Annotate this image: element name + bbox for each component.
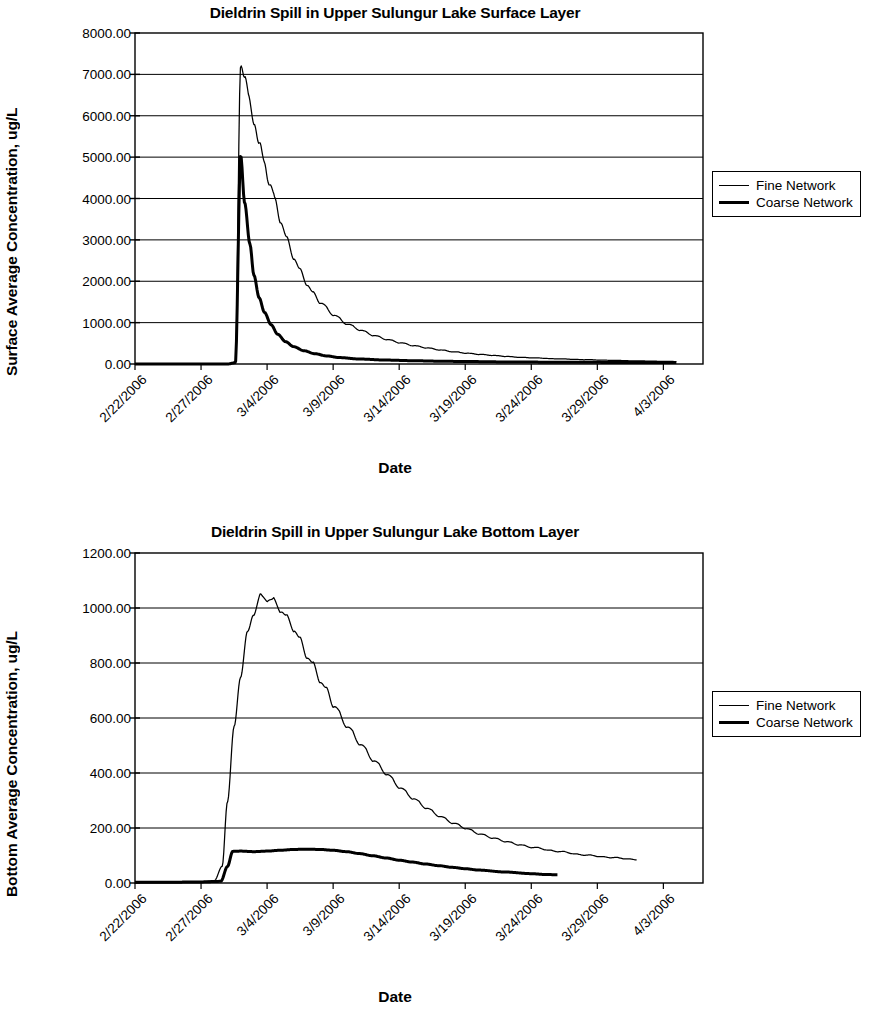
figure-surface-layer: Dieldrin Spill in Upper Sulungur Lake Su… [0, 0, 877, 500]
legend-bottom: Fine Network Coarse Network [712, 691, 861, 737]
x-axis-title-bottom: Date [0, 988, 790, 1006]
legend-item-fine-network[interactable]: Fine Network [719, 177, 853, 194]
figure-bottom-layer: Dieldrin Spill in Upper Sulungur Lake Bo… [0, 505, 877, 1009]
legend-item-coarse-network[interactable]: Coarse Network [719, 194, 853, 211]
legend-item-coarse-network[interactable]: Coarse Network [719, 714, 853, 731]
legend-label-coarse-network: Coarse Network [756, 195, 853, 210]
legend-label-fine-network: Fine Network [756, 698, 836, 713]
line-swatch-icon [719, 705, 749, 707]
legend-item-fine-network[interactable]: Fine Network [719, 697, 853, 714]
x-axis-title-surface: Date [0, 459, 790, 477]
line-swatch-icon [719, 185, 749, 187]
legend-surface: Fine Network Coarse Network [712, 171, 861, 217]
legend-label-coarse-network: Coarse Network [756, 715, 853, 730]
legend-label-fine-network: Fine Network [756, 178, 836, 193]
line-swatch-icon [719, 721, 749, 724]
chart-page: Dieldrin Spill in Upper Sulungur Lake Su… [0, 0, 877, 1009]
line-swatch-icon [719, 201, 749, 204]
